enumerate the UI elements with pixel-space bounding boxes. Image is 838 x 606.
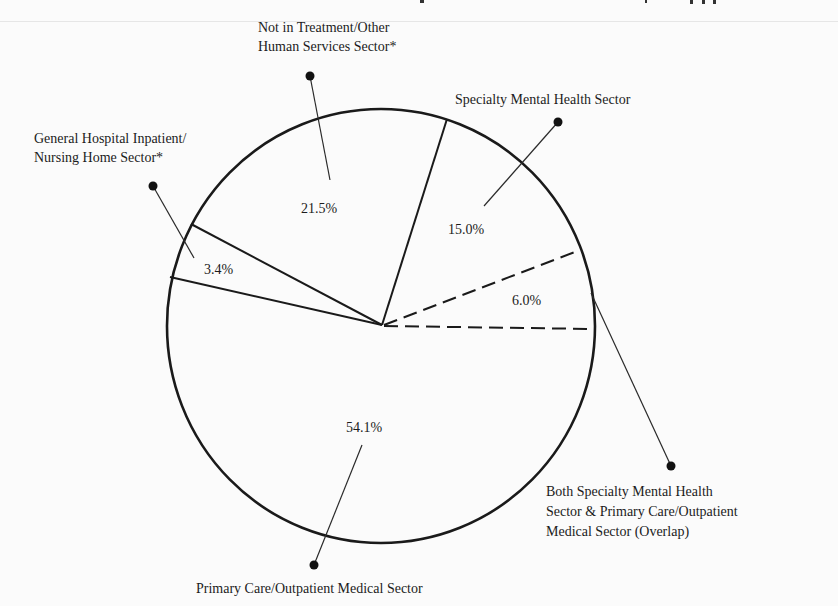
- boundary-primary-general: [170, 277, 382, 325]
- label-overlap-line3: Medical Sector (Overlap): [546, 524, 689, 540]
- leader-dot-general-hospital: [149, 182, 158, 191]
- boundary-overlap-primary-dashed: [384, 326, 594, 329]
- boundary-specialty-overlap-dashed: [384, 250, 580, 325]
- percent-label-not-in-treatment: 21.5%: [301, 201, 338, 216]
- leader-dot-not-in-treatment: [306, 72, 315, 81]
- percent-label-overlap: 6.0%: [512, 293, 542, 308]
- label-primary-care: Primary Care/Outpatient Medical Sector: [196, 581, 423, 596]
- label-specialty: Specialty Mental Health Sector: [455, 92, 631, 107]
- percent-label-specialty: 15.0%: [448, 222, 485, 237]
- label-not-in-treatment-line2: Human Services Sector*: [258, 39, 396, 54]
- leader-dot-overlap: [667, 462, 676, 471]
- pie-outline: [167, 109, 595, 543]
- label-not-in-treatment-line1: Not in Treatment/Other: [258, 20, 390, 35]
- label-overlap-line2: Sector & Primary Care/Outpatient: [546, 504, 738, 519]
- pie-chart-figure: 21.5% 3.4% 15.0% 6.0% 54.1% Not in Treat…: [0, 0, 838, 606]
- percent-label-primary-care: 54.1%: [346, 420, 383, 435]
- pie-chart: 21.5% 3.4% 15.0% 6.0% 54.1% Not in Treat…: [0, 0, 838, 606]
- boundary-notin-specialty: [382, 119, 447, 325]
- leader-dot-specialty: [554, 118, 563, 127]
- label-overlap-line1: Both Specialty Mental Health: [546, 484, 713, 499]
- cut-off-title: [420, 0, 716, 4]
- label-general-hospital-line2: Nursing Home Sector*: [34, 150, 163, 165]
- percent-label-general-hospital: 3.4%: [204, 262, 234, 277]
- label-general-hospital-line1: General Hospital Inpatient/: [34, 131, 187, 146]
- leader-dot-primary-care: [310, 561, 319, 570]
